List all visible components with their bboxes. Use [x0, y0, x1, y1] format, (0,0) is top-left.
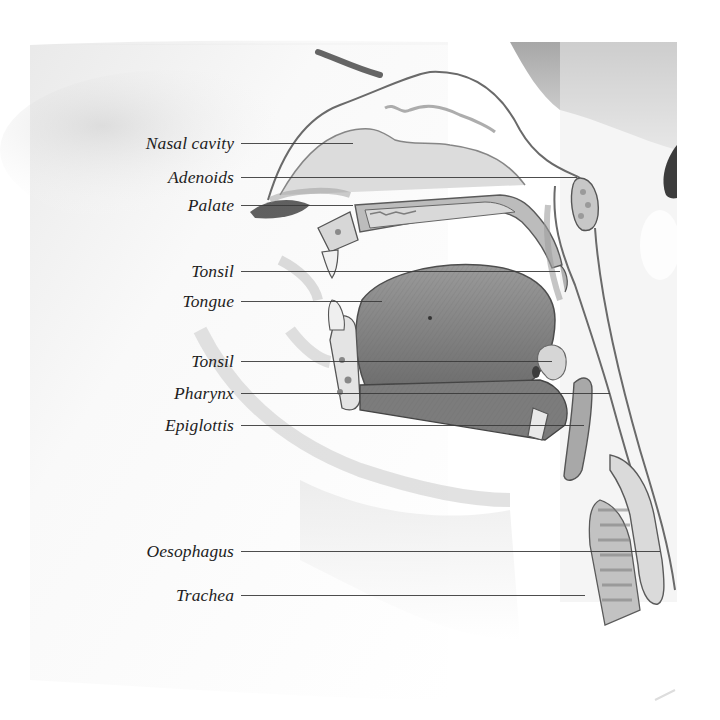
leader-line-tongue [241, 301, 382, 302]
decorative-mark [655, 690, 675, 700]
label-trachea: Trachea [176, 585, 234, 605]
label-oesophagus: Oesophagus [146, 541, 234, 561]
leader-line-trachea [241, 595, 585, 596]
leader-line-pharynx [241, 393, 610, 394]
label-adenoids: Adenoids [168, 167, 234, 187]
label-palate: Palate [188, 195, 234, 215]
head-neck-cross-section-illustration [0, 0, 720, 720]
leader-line-nasal-cavity [241, 143, 353, 144]
leader-line-oesophagus [241, 551, 660, 552]
label-tonsil-lower: Tonsil [191, 351, 234, 371]
leader-line-palate [241, 205, 353, 206]
leader-line-adenoids [241, 177, 577, 178]
label-tongue: Tongue [183, 291, 235, 311]
tongue-structure [356, 265, 555, 385]
leader-line-epiglottis [241, 425, 584, 426]
label-epiglottis: Epiglottis [165, 415, 234, 435]
label-tonsil-upper: Tonsil [191, 261, 234, 281]
label-pharynx: Pharynx [174, 383, 234, 403]
anatomy-diagram: Nasal cavity Adenoids Palate Tonsil Tong… [0, 0, 720, 720]
label-nasal-cavity: Nasal cavity [146, 133, 234, 153]
leader-line-tonsil-upper [241, 271, 560, 272]
leader-line-tonsil-lower [241, 361, 552, 362]
